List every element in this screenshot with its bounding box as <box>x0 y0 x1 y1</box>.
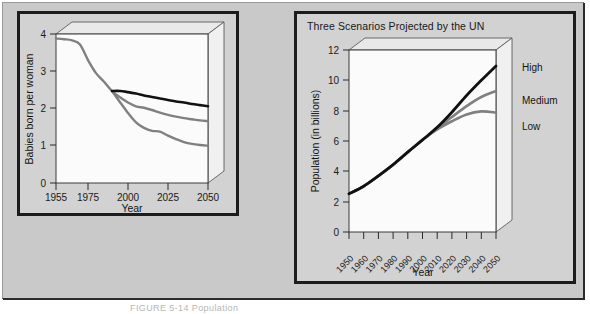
population-ytick-4: 4 <box>333 166 339 177</box>
population-y-axis-title: Population (in billions) <box>309 90 321 193</box>
fertility-y-axis <box>50 34 56 183</box>
population-ytick-2: 2 <box>333 197 339 208</box>
population-plot: 12 10 8 6 4 2 0 Population (in billions)… <box>297 14 573 281</box>
figure-caption: FIGURE 5-14 Population <box>130 303 430 314</box>
figure-root: 4 3 2 1 0 Babies born per woman 1955 197… <box>0 0 590 314</box>
population-legend: High Medium Low <box>522 62 558 132</box>
fertility-x-axis-title: Year <box>121 202 143 213</box>
fertility-ytick-0: 0 <box>40 178 46 189</box>
population-ytick-0: 0 <box>333 227 339 238</box>
population-ytick-12: 12 <box>328 45 340 56</box>
legend-label-medium: Medium <box>522 95 558 106</box>
population-x-axis <box>349 232 496 239</box>
legend-label-low: Low <box>522 121 541 132</box>
population-xtick-label-2050: 2050 <box>481 253 502 274</box>
population-ytick-8: 8 <box>333 106 339 117</box>
fertility-xtick-1975: 1975 <box>77 192 100 203</box>
fertility-ytick-3: 3 <box>40 66 46 77</box>
fertility-x-axis <box>56 183 208 190</box>
fertility-xtick-2025: 2025 <box>157 192 180 203</box>
fertility-y-axis-title: Babies born per woman <box>23 53 35 164</box>
fertility-xtick-2050: 2050 <box>197 192 220 203</box>
population-ytick-6: 6 <box>333 136 339 147</box>
fertility-ytick-1: 1 <box>40 140 46 151</box>
population-x-axis-title: Year <box>412 266 434 278</box>
population-y-tick-labels: 12 10 8 6 4 2 0 <box>328 45 340 238</box>
fertility-ytick-2: 2 <box>40 103 46 114</box>
fertility-plot: 4 3 2 1 0 Babies born per woman 1955 197… <box>20 14 236 213</box>
fertility-ytick-4: 4 <box>40 29 46 40</box>
population-chart-panel: Three Scenarios Projected by the UN 12 <box>294 11 576 284</box>
fertility-y-tick-labels: 4 3 2 1 0 <box>40 29 46 189</box>
fertility-chart-panel: 4 3 2 1 0 Babies born per woman 1955 197… <box>17 11 239 216</box>
population-ytick-10: 10 <box>328 75 340 86</box>
fertility-xtick-1955: 1955 <box>45 192 68 203</box>
legend-label-high: High <box>522 62 543 73</box>
population-y-axis <box>343 50 349 232</box>
